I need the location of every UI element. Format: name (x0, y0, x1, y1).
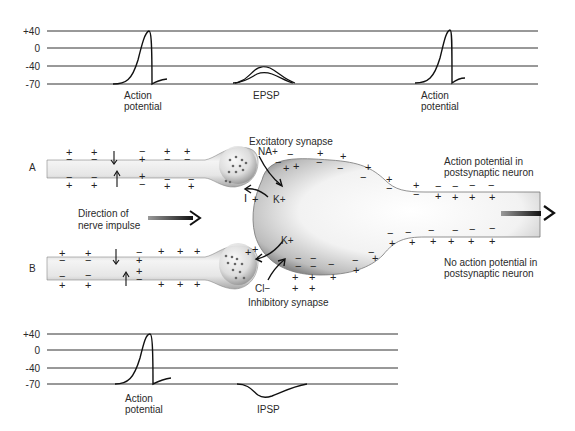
svg-text:I: I (244, 192, 247, 204)
bottom-trace-chart: +40 0 -40 -70 Action potential IPSP (23, 329, 398, 415)
svg-text:+: + (372, 252, 378, 264)
svg-text:−: − (139, 178, 145, 190)
y-tick-minus70: -70 (26, 79, 41, 90)
action-potential-trace-bottom (115, 334, 171, 384)
svg-text:+: + (252, 193, 258, 205)
neuron-illustration: A B ++ −− −++ +−− −− ++ +−− −++ ++ −− −+… (29, 136, 554, 308)
label-action-potential-bottom-line1: Action (125, 393, 153, 404)
action-potential-trace-1 (113, 31, 167, 84)
y-tick-plus40: +40 (23, 329, 40, 340)
svg-text:+: + (252, 243, 258, 255)
y-tick-0: 0 (34, 43, 40, 54)
svg-text:+: + (139, 153, 145, 165)
svg-text:+: + (188, 180, 194, 192)
svg-text:−: − (360, 171, 366, 183)
label-action-potential-2-line2: potential (421, 101, 459, 112)
y-tick-minus40: -40 (26, 363, 41, 374)
svg-text:+: + (340, 150, 346, 162)
svg-text:−: − (488, 179, 494, 191)
svg-text:−: − (316, 156, 322, 168)
svg-text:+: + (469, 191, 475, 203)
svg-text:+: + (489, 191, 495, 203)
ap-postsynaptic-line1: Action potential in (444, 156, 523, 167)
svg-text:+: + (158, 245, 164, 257)
y-tick-0: 0 (34, 345, 40, 356)
inhibitory-synapse-label: Inhibitory synapse (248, 297, 329, 308)
axon-a-label: A (29, 162, 36, 173)
svg-text:−: − (164, 153, 170, 165)
svg-text:+: + (389, 237, 395, 249)
svg-text:−: − (328, 258, 334, 270)
svg-text:+: + (435, 190, 441, 202)
svg-text:−: − (337, 162, 343, 174)
svg-text:+: + (330, 271, 336, 283)
top-trace-chart: +40 0 -40 -70 Action potential EPSP Acti… (23, 26, 538, 112)
svg-text:+: + (353, 264, 359, 276)
direction-arrow-icon (148, 211, 200, 225)
svg-text:+: + (158, 278, 164, 290)
svg-text:+: + (292, 282, 298, 294)
svg-text:+: + (177, 278, 183, 290)
svg-text:+: + (293, 160, 299, 172)
svg-text:+: + (85, 279, 91, 291)
svg-text:−: − (489, 222, 495, 234)
label-action-potential-bottom-line2: potential (125, 404, 163, 415)
action-potential-trace-2 (415, 30, 465, 83)
label-action-potential-1-line1: Action (124, 90, 152, 101)
direction-label-line2: nerve impulse (78, 220, 141, 231)
ion-cl-label: Cl− (255, 283, 270, 294)
axon-a-terminal-bulb (219, 146, 257, 184)
svg-text:−: − (469, 179, 475, 191)
svg-text:+: + (409, 236, 415, 248)
svg-text:−: − (275, 156, 281, 168)
svg-text:+: + (245, 246, 251, 258)
ion-k-top-label: K+ (273, 194, 286, 205)
svg-text:+: + (194, 278, 200, 290)
y-tick-minus70: -70 (26, 379, 41, 390)
svg-text:+: + (283, 162, 289, 174)
svg-text:+: + (468, 235, 474, 247)
y-tick-minus40: -40 (26, 61, 41, 72)
ion-k-bottom-label: K+ (281, 235, 294, 246)
svg-text:−: − (386, 182, 392, 194)
no-ap-postsynaptic-line1: No action potential in (444, 257, 537, 268)
label-action-potential-1-line2: potential (124, 101, 162, 112)
no-ap-postsynaptic-line2: postsynaptic neuron (444, 268, 534, 279)
svg-text:−: − (91, 153, 97, 165)
svg-text:−: − (469, 223, 475, 235)
direction-label-line1: Direction of (78, 208, 129, 219)
ipsp-trace (237, 384, 307, 397)
svg-text:+: + (66, 179, 72, 191)
ion-na-label: NA+ (258, 146, 278, 157)
excitatory-synapse-label: Excitatory synapse (249, 136, 333, 147)
ap-postsynaptic-line2: postsynaptic neuron (444, 167, 534, 178)
svg-text:+: + (59, 279, 65, 291)
svg-text:+: + (177, 245, 183, 257)
axon-b-label: B (29, 263, 36, 274)
svg-text:−: − (287, 148, 293, 160)
svg-text:−: − (184, 153, 190, 165)
svg-text:+: + (489, 235, 495, 247)
svg-text:−: − (136, 273, 142, 285)
svg-text:+: + (452, 191, 458, 203)
svg-text:−: − (59, 254, 65, 266)
svg-text:−: − (413, 188, 419, 200)
svg-text:−: − (66, 153, 72, 165)
svg-text:+: + (309, 282, 315, 294)
label-epsp: EPSP (253, 90, 280, 101)
svg-text:+: + (194, 245, 200, 257)
svg-text:+: + (430, 235, 436, 247)
label-action-potential-2-line1: Action (421, 90, 449, 101)
svg-text:+: + (91, 179, 97, 191)
svg-text:−: − (85, 254, 91, 266)
svg-text:+: + (448, 235, 454, 247)
label-ipsp: IPSP (257, 404, 280, 415)
y-tick-plus40: +40 (23, 26, 40, 37)
svg-text:+: + (164, 180, 170, 192)
synapse-diagram: +40 0 -40 -70 Action potential EPSP Acti… (0, 0, 575, 431)
